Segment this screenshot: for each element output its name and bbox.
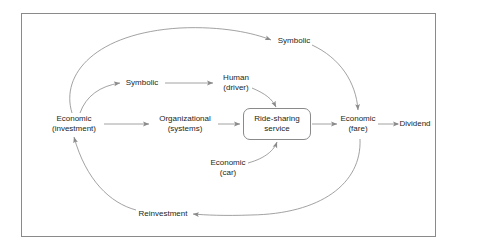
node-label-line1: Economic: [340, 114, 375, 123]
node-label-line1: Organizational: [159, 114, 211, 123]
node-economic-car: Economic (car): [209, 158, 246, 178]
node-label-line2: (fare): [340, 124, 375, 134]
node-economic-investment: Economic (investment): [51, 114, 97, 134]
node-human-driver: Human (driver): [222, 73, 250, 93]
node-label-line2: service: [264, 124, 289, 134]
node-label-line1: Economic: [210, 158, 245, 167]
node-economic-fare: Economic (fare): [339, 114, 376, 134]
node-reinvestment: Reinvestment: [138, 209, 189, 219]
node-label-line2: (investment): [52, 124, 96, 134]
edge-economic-car-to-service: [248, 142, 277, 163]
node-label-line2: (systems): [159, 124, 211, 134]
node-label-line2: (car): [210, 168, 245, 178]
node-label-line2: (driver): [223, 83, 249, 93]
node-ride-sharing-service: Ride-sharing service: [243, 108, 311, 140]
node-label-line1: Symbolic: [126, 78, 158, 87]
diagram-canvas: Economic (investment) Symbolic Symbolic …: [0, 0, 479, 252]
edge-reinvestment-to-investment: [74, 137, 136, 210]
node-organizational-systems: Organizational (systems): [158, 114, 212, 134]
edge-investment-to-symbolic-mid: [80, 83, 120, 113]
edge-human-driver-to-service: [252, 88, 276, 107]
edge-investment-to-symbolic-top: [70, 28, 271, 113]
node-label-line1: Ride-sharing: [254, 114, 299, 124]
node-label-line1: Reinvestment: [139, 209, 188, 218]
node-label-line1: Symbolic: [278, 36, 310, 45]
node-dividend: Dividend: [398, 119, 431, 129]
node-label-line1: Economic: [56, 114, 91, 123]
node-symbolic-top: Symbolic: [277, 36, 311, 46]
node-label-line1: Human: [223, 73, 249, 82]
node-symbolic-mid: Symbolic: [125, 78, 159, 88]
edge-symbolic-top-to-economic-fare: [312, 45, 358, 110]
node-label-line1: Dividend: [399, 119, 430, 128]
